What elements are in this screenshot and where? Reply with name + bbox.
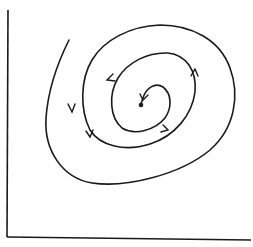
y-axis [7, 10, 8, 237]
arrow-icon [161, 125, 168, 132]
equilibrium-point [139, 103, 144, 108]
arrow-icon [107, 74, 115, 81]
phase-portrait-diagram [0, 0, 253, 247]
arrow-icon [86, 130, 93, 137]
arrow-icon [68, 104, 75, 112]
x-axis [7, 237, 251, 240]
